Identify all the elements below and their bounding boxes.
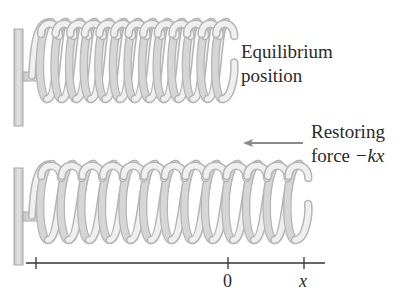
restoring-force-math: −kx — [355, 145, 385, 166]
equilibrium-label-line2: position — [241, 66, 302, 85]
axis-label-zero: 0 — [223, 272, 232, 290]
restoring-force-label-line1: Restoring — [311, 122, 385, 141]
restoring-force-arrow — [243, 139, 303, 147]
spring-diagram: Equilibrium position Restoring force −kx… — [0, 0, 410, 304]
restoring-force-label-line2: force −kx — [311, 146, 384, 165]
x-axis — [26, 257, 325, 269]
top-spring-equilibrium — [32, 22, 234, 99]
bottom-spring-stretched — [32, 164, 308, 240]
axis-label-x: x — [299, 272, 307, 290]
restoring-force-prefix: force — [311, 145, 355, 166]
equilibrium-label-line1: Equilibrium — [241, 42, 333, 61]
